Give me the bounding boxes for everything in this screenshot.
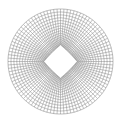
mesh-radial-line: [70, 69, 102, 93]
mesh-radial-line: [70, 30, 102, 54]
mesh-radial-line: [19, 30, 51, 54]
mesh-radial-line: [19, 69, 51, 93]
mesh-radial-line: [68, 71, 92, 103]
mesh-svg: [0, 0, 124, 122]
mesh-radial-line: [68, 20, 92, 52]
mesh-diagram: [0, 0, 124, 122]
mesh-radial-line: [29, 20, 53, 52]
mesh-radial-line: [29, 71, 53, 103]
